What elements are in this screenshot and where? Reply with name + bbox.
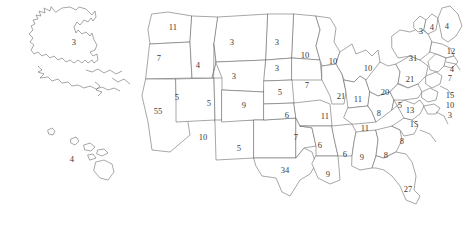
state-label-arizona: 10 [199, 133, 208, 142]
state-label-west-virginia: 5 [398, 101, 402, 110]
state-label-iowa: 7 [305, 81, 309, 90]
state-label-new-mexico: 5 [237, 144, 241, 153]
state-label-nebraska: 5 [278, 88, 282, 97]
state-label-ohio: 20 [381, 88, 390, 97]
us-electoral-map: 3411755455103395335673410711691021610111… [0, 0, 471, 227]
state-label-nevada: 5 [175, 93, 179, 102]
state-label-wyoming: 3 [232, 72, 236, 81]
state-label-north-dakota: 3 [275, 38, 279, 47]
state-label-utah: 5 [207, 99, 211, 108]
state-label-alaska: 3 [72, 38, 76, 47]
alaska-outline [29, 7, 130, 96]
state-label-new-hampshire: 4 [430, 23, 434, 32]
state-label-california: 55 [154, 107, 163, 116]
state-label-south-carolina: 8 [400, 137, 404, 146]
state-label-idaho: 4 [196, 61, 200, 70]
state-label-north-carolina: 15 [410, 120, 419, 129]
state-label-pennsylvania: 21 [406, 75, 415, 84]
state-label-new-york: 31 [409, 54, 418, 63]
hawaii-outline [48, 128, 114, 180]
state-label-new-jersey: 15 [446, 91, 455, 100]
state-label-wisconsin: 10 [329, 57, 338, 66]
state-label-delaware: 3 [448, 111, 452, 120]
state-label-florida: 27 [404, 185, 413, 194]
state-label-kentucky: 8 [377, 109, 381, 118]
state-label-illinois: 21 [337, 92, 346, 101]
state-label-colorado: 9 [242, 101, 246, 110]
us-map-outlines [0, 0, 471, 227]
state-label-tennessee: 11 [361, 124, 369, 133]
state-label-vermont: 3 [419, 27, 423, 36]
state-label-oregon: 7 [157, 54, 161, 63]
state-label-mississippi: 6 [343, 150, 347, 159]
state-label-louisiana: 9 [326, 170, 330, 179]
state-label-alabama: 9 [360, 153, 364, 162]
state-label-oklahoma: 7 [294, 133, 298, 142]
state-label-minnesota: 10 [301, 51, 310, 60]
state-label-connecticut: 7 [448, 74, 452, 83]
state-label-washington: 11 [169, 23, 177, 32]
state-label-south-dakota: 3 [275, 64, 279, 73]
state-label-maryland: 10 [446, 101, 455, 110]
state-label-maine: 4 [445, 22, 449, 31]
state-label-georgia: 8 [384, 151, 388, 160]
state-label-missouri: 11 [321, 112, 329, 121]
state-label-hawaii: 4 [70, 155, 74, 164]
state-label-kansas: 6 [285, 111, 289, 120]
state-label-massachusetts: 12 [447, 47, 456, 56]
state-label-arkansas: 6 [318, 141, 322, 150]
state-label-virginia: 13 [406, 106, 415, 115]
state-label-michigan: 10 [364, 64, 373, 73]
state-label-montana: 3 [230, 38, 234, 47]
state-label-texas: 34 [281, 166, 290, 175]
state-label-indiana: 11 [354, 95, 362, 104]
